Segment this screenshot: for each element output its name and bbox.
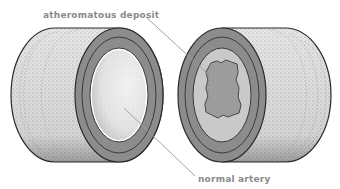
normal-artery-illustration <box>11 28 163 162</box>
diseased-artery-illustration <box>178 28 331 162</box>
artery-diagram: atheromatous deposit normal artery <box>0 0 340 189</box>
normal-artery-label: normal artery <box>198 174 271 184</box>
diagram-canvas <box>0 0 340 189</box>
atheromatous-deposit-label: atheromatous deposit <box>43 10 159 20</box>
